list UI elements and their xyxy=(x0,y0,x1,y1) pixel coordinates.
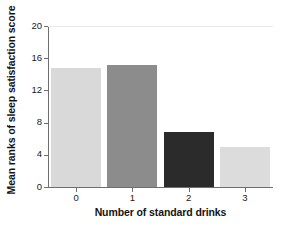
bar-chart-figure: Mean ranks of sleep satisfaction score 0… xyxy=(0,0,281,230)
x-tick-mark xyxy=(189,188,190,192)
y-tick-mark xyxy=(44,90,48,91)
x-tick-label: 3 xyxy=(230,193,260,203)
bar xyxy=(51,68,101,187)
y-tick-mark xyxy=(44,123,48,124)
x-tick-mark xyxy=(76,188,77,192)
y-tick-label: 20 xyxy=(2,21,42,31)
x-tick-mark xyxy=(132,188,133,192)
bar xyxy=(164,132,214,187)
bar xyxy=(107,65,157,187)
y-axis-ticks: 048121620 xyxy=(0,0,42,230)
y-tick-label: 16 xyxy=(2,53,42,63)
bar xyxy=(220,147,270,187)
gridline-top xyxy=(48,26,273,27)
y-tick-label: 0 xyxy=(2,182,42,192)
y-tick-label: 8 xyxy=(2,117,42,127)
y-tick-mark xyxy=(44,155,48,156)
x-tick-mark xyxy=(245,188,246,192)
y-tick-mark xyxy=(44,26,48,27)
plot-area xyxy=(48,26,273,187)
x-tick-label: 0 xyxy=(61,193,91,203)
x-tick-label: 2 xyxy=(174,193,204,203)
x-axis-line xyxy=(48,187,273,188)
y-tick-label: 12 xyxy=(2,85,42,95)
y-tick-label: 4 xyxy=(2,149,42,159)
y-tick-mark xyxy=(44,187,48,188)
y-tick-mark xyxy=(44,58,48,59)
x-axis-title: Number of standard drinks xyxy=(48,206,273,218)
x-tick-label: 1 xyxy=(117,193,147,203)
